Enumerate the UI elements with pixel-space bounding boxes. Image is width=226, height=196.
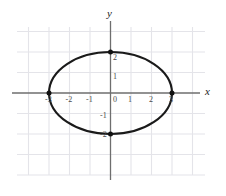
x-tick-label--2: -2 bbox=[66, 96, 73, 104]
x-tick-label--3: -3 bbox=[45, 96, 52, 104]
x-axis-label: x bbox=[205, 86, 210, 97]
y-axis-label: y bbox=[107, 8, 112, 19]
y-tick-label-2: 2 bbox=[113, 54, 117, 62]
x-tick-label-1: 1 bbox=[128, 96, 132, 104]
graph-figure: -3 -2 -1 0 1 2 3 2 1 -1 -2 x y bbox=[0, 0, 226, 196]
y-tick-label--2: -2 bbox=[100, 131, 107, 139]
x-tick-label-2: 2 bbox=[149, 96, 153, 104]
x-tick-label-3: 3 bbox=[169, 96, 173, 104]
x-tick-label--1: -1 bbox=[86, 96, 93, 104]
x-tick-label-0: 0 bbox=[113, 96, 117, 104]
y-tick-label-1: 1 bbox=[113, 73, 117, 81]
vertex-bottom-dot bbox=[108, 132, 113, 137]
y-tick-label--1: -1 bbox=[100, 112, 107, 120]
